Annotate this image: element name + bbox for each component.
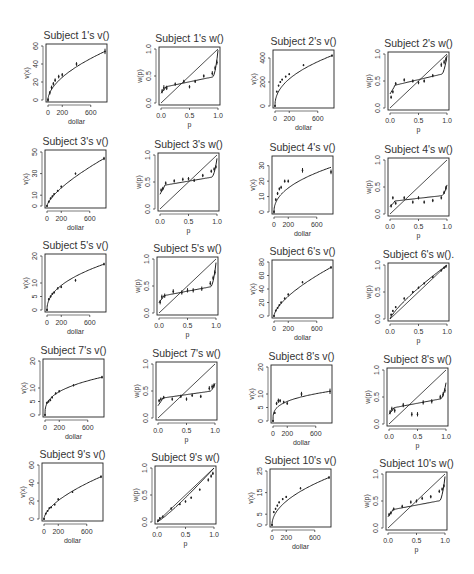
data-point [73, 384, 75, 386]
y-axis-label: w(p) [365, 285, 373, 300]
fitted-curve [158, 383, 215, 405]
x-axis-label: dollar [292, 543, 310, 550]
data-point [45, 513, 47, 515]
data-point [165, 182, 167, 184]
y-tick-label: 0.5 [141, 490, 148, 500]
figure-canvas: Subject 1's v()02006000204060dollarv(x)S… [0, 0, 474, 574]
panel-s1v: Subject 1's v()02006000204060dollarv(x) [23, 29, 110, 125]
fitted-curve [45, 377, 102, 415]
y-tick-label: 5 [29, 399, 36, 403]
x-tick-label: 0 [46, 109, 50, 116]
y-tick-label: 1.0 [142, 359, 149, 369]
data-point [403, 298, 405, 300]
y-tick-label: 30 [31, 170, 38, 178]
x-axis-label: dollar [67, 224, 85, 231]
data-point [161, 90, 163, 92]
fitted-curve [274, 167, 331, 212]
panel-s3w: Subject 3's w()0.00.51.00.00.51.0pw(p) [135, 138, 223, 235]
y-tick-label: 20 [28, 497, 35, 505]
data-point [161, 296, 163, 298]
data-point [276, 505, 278, 507]
data-point [188, 178, 190, 180]
data-point [183, 81, 185, 83]
identity-line [158, 364, 215, 418]
data-point [171, 398, 173, 400]
data-point [160, 398, 162, 400]
data-point [60, 286, 62, 288]
y-tick-label: 5 [257, 405, 264, 409]
x-tick-label: 0 [272, 325, 276, 332]
x-tick-label: 0 [270, 534, 274, 541]
data-point [61, 74, 63, 76]
panel-title: Subject 6's w(). [383, 248, 454, 260]
data-point [432, 75, 434, 77]
data-point [279, 400, 281, 402]
y-axis-label: w(p) [134, 279, 142, 294]
data-point [201, 288, 203, 290]
y-tick-label: 0 [257, 419, 264, 423]
data-point [390, 96, 392, 98]
data-point [172, 291, 174, 293]
fitted-curve [44, 477, 101, 519]
y-tick-label: 10 [31, 279, 38, 287]
fitted-curve [160, 158, 217, 194]
y-tick-label: 0.0 [373, 419, 380, 429]
y-axis-label: v(x) [23, 67, 31, 79]
y-axis-label: v(x) [249, 283, 257, 295]
x-axis-label: dollar [294, 230, 312, 237]
x-tick-label: 1.0 [440, 537, 450, 544]
data-point [57, 190, 59, 192]
plot-frame [272, 156, 333, 214]
y-tick-label: 1.0 [374, 260, 381, 270]
data-point [49, 92, 51, 94]
data-point [286, 403, 288, 405]
data-point [60, 186, 62, 188]
panel-s9v: Subject 9's v()02006000204060dollarv(x) [19, 448, 106, 544]
data-point [441, 488, 443, 490]
y-tick-label: 0.0 [145, 98, 152, 108]
data-point [213, 168, 215, 170]
data-point [48, 201, 50, 203]
data-point [300, 487, 302, 489]
data-point [194, 81, 196, 83]
x-tick-label: 0.0 [385, 117, 395, 124]
x-tick-label: 1.0 [442, 328, 452, 335]
y-tick-label: 20 [31, 252, 38, 260]
data-point [50, 506, 52, 508]
data-point [166, 87, 168, 89]
panel-title: Subject 10's w() [379, 457, 453, 469]
data-point [58, 76, 60, 78]
x-tick-label: 0.5 [184, 218, 194, 225]
y-tick-label: 10 [31, 191, 38, 199]
data-point [445, 187, 447, 189]
data-point [159, 301, 161, 303]
data-point [283, 401, 285, 403]
x-tick-label: 0.0 [153, 427, 163, 434]
x-tick-label: 1.0 [442, 223, 452, 230]
panel-title: Subject 1's v() [43, 29, 109, 41]
data-point [214, 272, 216, 274]
data-point [278, 85, 280, 87]
plot-frame [46, 44, 107, 102]
data-point [273, 315, 275, 317]
x-tick-label: 200 [52, 528, 64, 535]
x-axis-label: p [417, 126, 421, 134]
identity-line [160, 155, 217, 209]
data-point [50, 296, 52, 298]
data-point [215, 166, 217, 168]
data-point [276, 403, 278, 405]
x-tick-label: 600 [84, 319, 96, 326]
data-point [163, 87, 165, 89]
y-tick-label: 0.0 [141, 517, 148, 527]
data-point [164, 295, 166, 297]
data-point [103, 158, 105, 160]
data-point [58, 390, 60, 392]
y-tick-label: 0 [29, 413, 36, 417]
data-point [200, 396, 202, 398]
data-point [302, 169, 304, 171]
data-point [199, 489, 201, 491]
data-point [392, 91, 394, 93]
data-point [101, 376, 103, 378]
fitted-curve [47, 159, 104, 207]
identity-line [390, 265, 447, 319]
